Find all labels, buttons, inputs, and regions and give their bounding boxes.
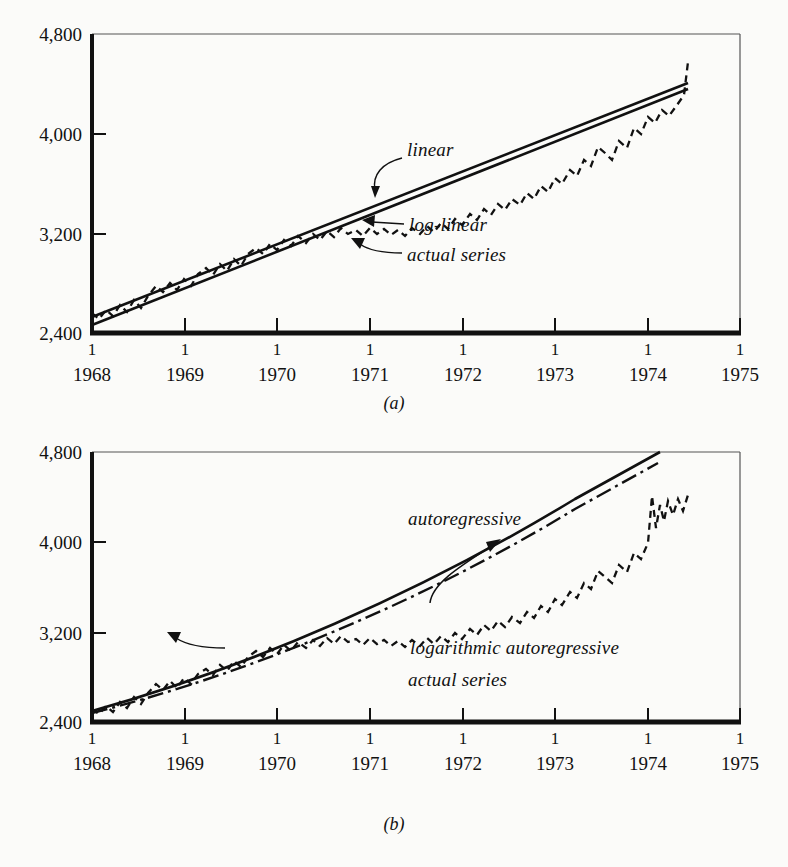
panel-a-xyear-1968: 1968 <box>73 365 111 384</box>
panel-b-xtick-q-7: 1 <box>736 730 745 747</box>
panel-a-xtick-q-5: 1 <box>551 341 560 358</box>
panel-a-y-ticks <box>92 134 106 234</box>
panel-a-xyear-1970: 1970 <box>258 365 296 384</box>
panel-b-ytick-2400: 2,400 <box>8 713 82 732</box>
panel-b-xyear-1969: 1969 <box>166 754 204 773</box>
panel-b-caption: (b) <box>0 815 788 833</box>
annotation-linear-a: linear <box>407 140 454 159</box>
panel-a-xyear-1973: 1973 <box>536 365 574 384</box>
panel-a-axes <box>90 34 741 334</box>
panel-b-xtick-q-4: 1 <box>459 730 468 747</box>
panel-b-xyear-1973: 1973 <box>536 754 574 773</box>
panel-b-y-ticks <box>92 542 106 633</box>
panel-a-xtick-q-3: 1 <box>366 341 375 358</box>
panel-a-xtick-q-4: 1 <box>459 341 468 358</box>
panel-a-ytick-4000: 4,000 <box>8 125 82 144</box>
series-actual-b <box>92 495 688 714</box>
series-log-linear-a <box>92 83 688 317</box>
panel-a-xtick-q-0: 1 <box>88 341 97 358</box>
series-actual-a <box>92 62 688 319</box>
annotation-log-autoregressive-b: logarithmic autoregressive <box>410 638 619 657</box>
series-autoregressive-b <box>92 452 660 711</box>
panel-a-caption: (a) <box>0 394 788 412</box>
annotation-leader-actual-b <box>167 632 225 648</box>
panel-b-xtick-q-2: 1 <box>273 730 282 747</box>
panel-a-xtick-q-6: 1 <box>644 341 653 358</box>
chart-panel-a: 4,800 4,000 3,200 2,400 1 1 1 1 1 1 1 1 … <box>0 0 788 420</box>
chart-panel-b: 4,800 4,000 3,200 2,400 1 1 1 1 1 1 1 1 … <box>0 433 788 853</box>
panel-a-plot <box>0 0 788 420</box>
panel-a-xtick-q-1: 1 <box>181 341 190 358</box>
annotation-autoregressive-b: autoregressive <box>408 509 521 528</box>
panel-a-ytick-2400: 2,400 <box>8 324 82 343</box>
panel-a-ytick-3200: 3,200 <box>8 225 82 244</box>
annotation-log-linear-a: log-linear <box>409 215 487 234</box>
panel-b-xtick-q-3: 1 <box>366 730 375 747</box>
panel-b-xyear-1974: 1974 <box>629 754 667 773</box>
panel-a-xyear-1969: 1969 <box>166 365 204 384</box>
panel-a-xyear-1971: 1971 <box>351 365 389 384</box>
panel-b-xyear-1975: 1975 <box>721 754 759 773</box>
panel-b-xtick-q-0: 1 <box>88 730 97 747</box>
panel-b-xtick-q-5: 1 <box>551 730 560 747</box>
panel-a-xtick-q-7: 1 <box>736 341 745 358</box>
annotation-actual-series-a: actual series <box>407 245 506 264</box>
panel-b-xyear-1971: 1971 <box>351 754 389 773</box>
annotation-leader-actual-a <box>351 238 402 253</box>
panel-b-ytick-4800: 4,800 <box>8 443 82 462</box>
series-linear-a <box>92 89 688 325</box>
panel-b-xtick-q-6: 1 <box>644 730 653 747</box>
panel-b-xyear-1972: 1972 <box>444 754 482 773</box>
annotation-leader-linear-a <box>371 158 402 198</box>
panel-b-xyear-1970: 1970 <box>258 754 296 773</box>
panel-b-ytick-3200: 3,200 <box>8 624 82 643</box>
panel-b-xyear-1968: 1968 <box>73 754 111 773</box>
panel-a-xtick-q-2: 1 <box>273 341 282 358</box>
panel-a-xyear-1975: 1975 <box>721 365 759 384</box>
panel-a-ytick-4800: 4,800 <box>8 25 82 44</box>
panel-b-plot <box>0 433 788 867</box>
panel-a-xyear-1974: 1974 <box>629 365 667 384</box>
panel-b-ytick-4000: 4,000 <box>8 533 82 552</box>
panel-a-xyear-1972: 1972 <box>444 365 482 384</box>
annotation-actual-series-b: actual series <box>408 670 507 689</box>
panel-b-xtick-q-1: 1 <box>181 730 190 747</box>
figure-container: 4,800 4,000 3,200 2,400 1 1 1 1 1 1 1 1 … <box>0 0 788 867</box>
